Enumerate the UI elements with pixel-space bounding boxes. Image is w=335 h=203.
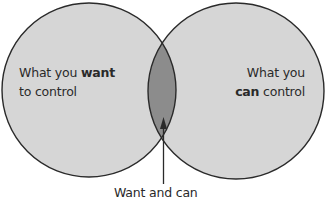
arrow-up-icon [160, 117, 167, 184]
want-label-emphasis: want [81, 65, 115, 80]
venn-diagram [0, 0, 335, 203]
want-set-label: What you want to control [19, 63, 115, 101]
can-label-text: control [259, 84, 305, 99]
can-set-label: What you can control [235, 63, 305, 101]
want-label-line2: to control [19, 82, 115, 101]
overlap-label: Want and can [114, 183, 198, 202]
can-label-line1: What you [235, 63, 305, 82]
can-label-emphasis: can [235, 84, 259, 99]
want-label-text: What you [19, 65, 81, 80]
